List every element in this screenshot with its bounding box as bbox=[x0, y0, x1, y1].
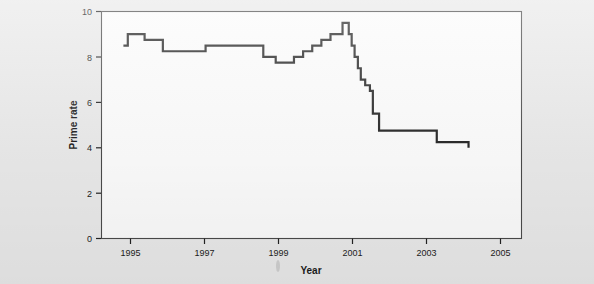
y-tick-label-8: 8 bbox=[87, 53, 92, 63]
x-tick-label-2003: 2003 bbox=[416, 248, 436, 258]
y-tick-label-2: 2 bbox=[87, 189, 92, 199]
x-tick-label-1997: 1997 bbox=[194, 248, 214, 258]
chart-figure: 10 8 6 4 2 0 1995 1997 1999 2001 2003 20… bbox=[0, 0, 594, 284]
x-tick-label-1995: 1995 bbox=[120, 248, 140, 258]
y-axis-title: Prime rate bbox=[68, 100, 79, 149]
y-tick-label-0: 0 bbox=[87, 234, 92, 244]
x-axis-title: Year bbox=[300, 265, 321, 276]
y-tick-label-10: 10 bbox=[82, 7, 92, 17]
prime-rate-chart: 10 8 6 4 2 0 1995 1997 1999 2001 2003 20… bbox=[0, 0, 594, 284]
scan-smudge bbox=[276, 260, 280, 272]
y-tick-label-6: 6 bbox=[87, 98, 92, 108]
x-tick-label-1999: 1999 bbox=[268, 248, 288, 258]
y-tick-label-4: 4 bbox=[87, 143, 92, 153]
x-tick-label-2001: 2001 bbox=[342, 248, 362, 258]
x-tick-label-2005: 2005 bbox=[490, 248, 510, 258]
